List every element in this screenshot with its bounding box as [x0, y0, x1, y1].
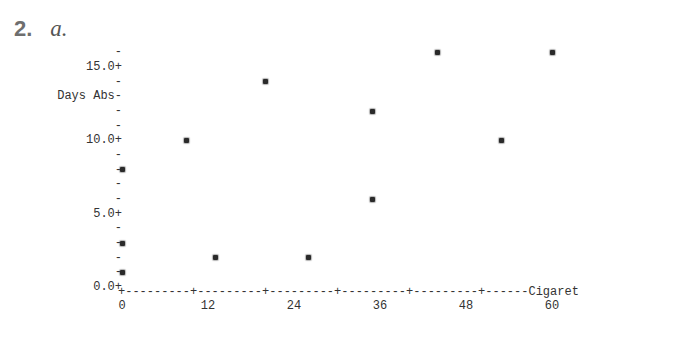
data-point [369, 107, 377, 115]
x-axis-tick-label: 24 [287, 299, 301, 313]
data-point [261, 78, 269, 86]
data-point [118, 166, 126, 174]
y-axis-minor-tick: - [115, 177, 122, 191]
asterisk-marker-icon [370, 109, 375, 114]
asterisk-marker-icon [120, 167, 125, 172]
data-point [183, 136, 191, 144]
y-axis-minor-tick: - [115, 251, 122, 265]
y-axis-minor-tick: - [115, 221, 122, 235]
data-point [118, 268, 126, 276]
y-axis-minor-tick: - [115, 104, 122, 118]
data-point [548, 48, 556, 56]
y-axis-tick-label: 15.0+ [86, 60, 122, 74]
data-point [118, 239, 126, 247]
y-axis-minor-tick: - [115, 45, 122, 59]
y-axis-title: Days Abs- [57, 89, 122, 103]
data-point [304, 254, 312, 262]
x-axis-tick-label: 0 [118, 299, 125, 313]
y-axis-minor-tick: - [115, 119, 122, 133]
asterisk-marker-icon [213, 255, 218, 260]
data-point [433, 48, 441, 56]
y-axis-minor-tick: - [115, 75, 122, 89]
asterisk-marker-icon [370, 197, 375, 202]
asterisk-marker-icon [550, 50, 555, 55]
asterisk-marker-icon [184, 138, 189, 143]
x-axis-tick-label: 60 [545, 299, 559, 313]
data-point [498, 136, 506, 144]
x-axis-tick-label: 48 [459, 299, 473, 313]
data-point [369, 195, 377, 203]
y-axis-minor-tick: - [115, 192, 122, 206]
scatter-plot: -15.0+-Days Abs---10.0+----5.0+----0.0+ … [0, 0, 688, 342]
asterisk-marker-icon [120, 270, 125, 275]
y-axis-minor-tick: - [115, 148, 122, 162]
asterisk-marker-icon [120, 241, 125, 246]
x-axis-tick-label: 12 [201, 299, 215, 313]
asterisk-marker-icon [306, 255, 311, 260]
asterisk-marker-icon [263, 79, 268, 84]
x-axis-tick-label: 36 [373, 299, 387, 313]
data-point [211, 254, 219, 262]
y-axis-tick-label: 10.0+ [86, 133, 122, 147]
y-axis-tick-label: 5.0+ [93, 207, 122, 221]
asterisk-marker-icon [435, 50, 440, 55]
asterisk-marker-icon [499, 138, 504, 143]
x-axis-line: +---------+---------+---------+---------… [118, 285, 579, 299]
